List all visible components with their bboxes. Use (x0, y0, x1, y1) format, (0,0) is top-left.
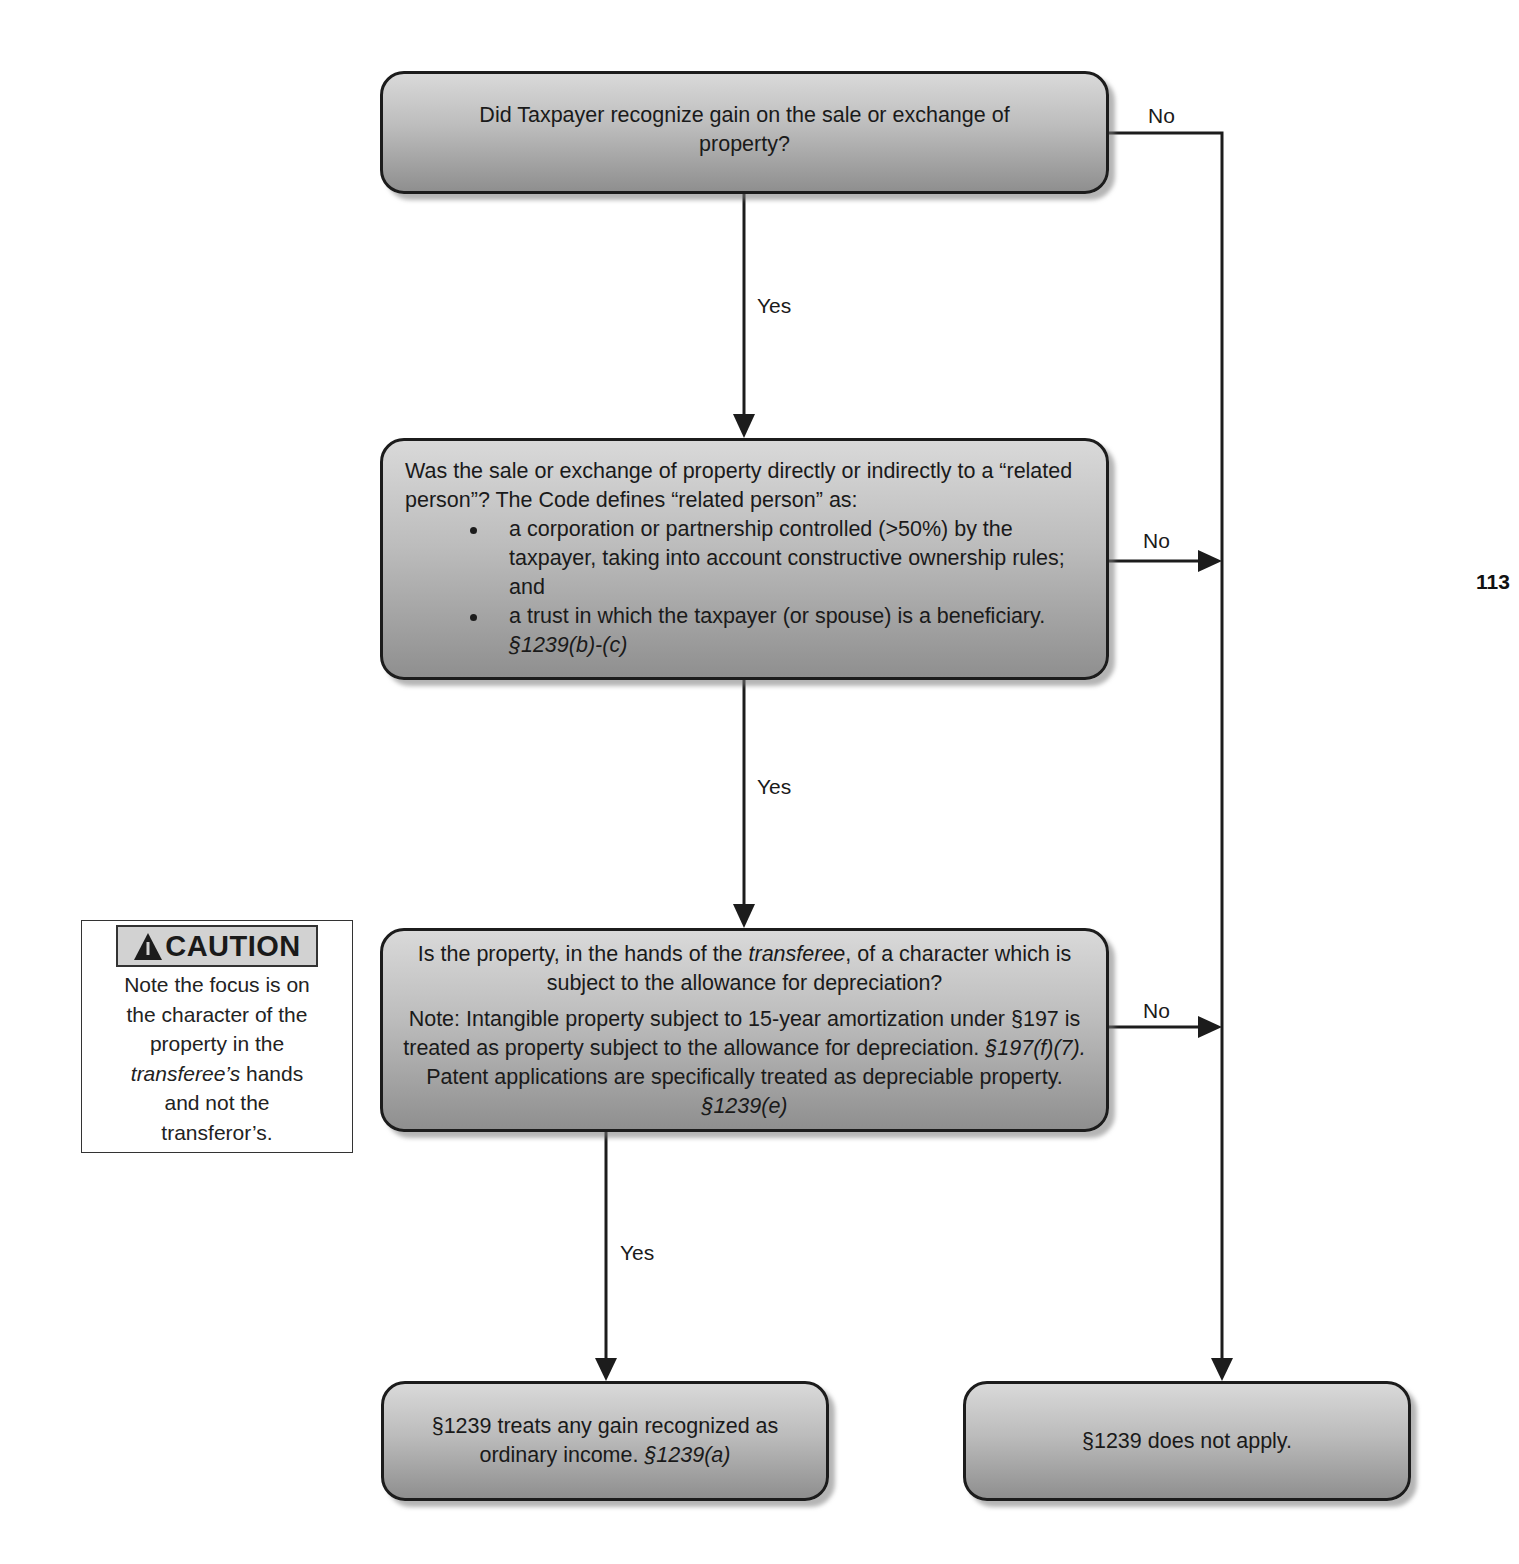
code-citation: §1239(e) (701, 1094, 787, 1118)
related-person-list: a corporation or partnership controlled … (405, 515, 1092, 660)
edge-label-q1-no: No (1148, 104, 1175, 128)
arrowhead-result-no (1211, 1358, 1233, 1381)
arrowhead-q1-q2 (733, 414, 755, 438)
code-citation: §197(f)(7). (985, 1036, 1085, 1060)
list-item: a corporation or partnership controlled … (467, 515, 1092, 602)
result-text: §1239 does not apply. (980, 1427, 1394, 1456)
decision-text: Was the sale or exchange of property dir… (405, 457, 1092, 515)
code-citation: §1239(a) (644, 1443, 730, 1467)
decision-node-related-person: Was the sale or exchange of property dir… (380, 438, 1109, 680)
caution-title: CAUTION (165, 930, 301, 963)
caution-header: CAUTION (116, 925, 318, 967)
page-number: 113 (1476, 570, 1510, 594)
edge-q1-no (1108, 133, 1222, 1360)
decision-text: Is the property, in the hands of the tra… (391, 940, 1098, 998)
decision-text: Did Taxpayer recognize gain on the sale … (397, 101, 1092, 159)
arrowhead-result-yes (595, 1358, 617, 1381)
result-text: §1239 treats any gain recognized as ordi… (398, 1412, 812, 1470)
list-item: a trust in which the taxpayer (or spouse… (467, 602, 1092, 660)
decision-node-gain-recognized: Did Taxpayer recognize gain on the sale … (380, 71, 1109, 194)
caution-text: Note the focus is on the character of th… (82, 970, 352, 1147)
decision-note: Note: Intangible property subject to 15-… (391, 1005, 1098, 1121)
result-node-does-not-apply: §1239 does not apply. (963, 1381, 1411, 1501)
code-citation: §1239(b)-(c) (509, 633, 627, 657)
decision-node-depreciable: Is the property, in the hands of the tra… (380, 928, 1109, 1132)
edge-label-q3-yes: Yes (620, 1241, 654, 1265)
result-node-ordinary-income: §1239 treats any gain recognized as ordi… (381, 1381, 829, 1501)
edge-label-q2-no: No (1143, 529, 1170, 553)
edge-label-q3-no: No (1143, 999, 1170, 1023)
caution-callout: CAUTION Note the focus is on the charact… (81, 920, 353, 1153)
warning-triangle-icon (133, 931, 163, 961)
edge-label-q2-yes: Yes (757, 775, 791, 799)
arrowhead-q3-no (1198, 1016, 1222, 1038)
arrowhead-q2-q3 (733, 904, 755, 928)
edge-label-q1-yes: Yes (757, 294, 791, 318)
arrowhead-q2-no (1198, 550, 1222, 572)
